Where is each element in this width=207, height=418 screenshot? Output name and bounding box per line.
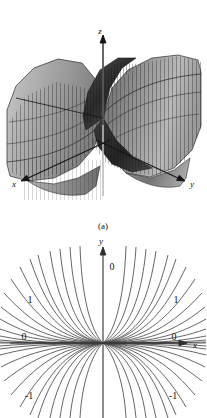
axes-2d [10,247,187,418]
contour-label-mid-left: 0 [22,331,27,342]
contour-label-upper-left: 1 [28,294,33,305]
panel-a-surface-plot: z x y (a) [0,0,207,235]
y-axis-arrowhead [100,247,106,255]
contour-label-lower-right: -1 [169,390,177,401]
surface-3d-svg: z x y (a) [0,0,207,235]
y-axis-label: y [98,236,103,246]
panel-b-contour-plot: y x 0 1 1 0 0 -1 -1 [0,235,207,418]
z-axis-label: z [97,26,102,36]
z-axis-arrowhead [100,35,106,43]
contour-2d-svg: y x 0 1 1 0 0 -1 -1 [0,235,207,418]
y-axis-label: y [189,179,194,189]
x-axis-label: x [11,179,16,189]
contour-label-upper-right: 1 [174,294,179,305]
contour-label-mid-right: 0 [172,331,177,342]
x-axis-label: x [192,340,197,350]
contour-label-upper-center: 0 [110,261,115,272]
panel-a-caption: (a) [98,221,108,231]
surface-skirt-lower-left [24,160,104,200]
contour-label-lower-left: -1 [25,390,33,401]
textbook-figure: z x y (a) [0,0,207,418]
